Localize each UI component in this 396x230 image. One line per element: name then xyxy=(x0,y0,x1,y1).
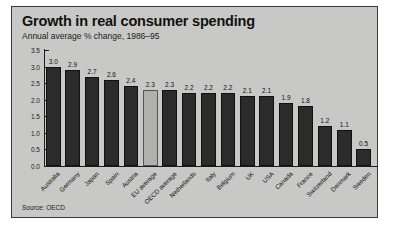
bar xyxy=(124,86,139,166)
bar-column: 1.9 xyxy=(279,103,294,166)
bar xyxy=(143,90,158,166)
y-tick-label: 3.5 xyxy=(18,47,40,54)
y-tick-label: 2.0 xyxy=(18,96,40,103)
bar xyxy=(279,103,294,166)
x-category-label: Canada xyxy=(274,170,295,191)
bar-column: 1.2 xyxy=(318,126,333,166)
y-tick-label: 2.5 xyxy=(18,80,40,87)
bar-column: 2.1 xyxy=(259,96,274,166)
x-category-label: USA xyxy=(261,170,275,184)
bar xyxy=(221,93,236,166)
x-category-label: UK xyxy=(244,170,255,181)
page-title: Growth in real consumer spending xyxy=(22,13,255,29)
chart-panel: Growth in real consumer spending Annual … xyxy=(11,6,378,218)
bar xyxy=(85,77,100,166)
bar-value-label: 1.8 xyxy=(292,97,318,104)
source-note: Source: OECD xyxy=(22,204,65,211)
bar xyxy=(337,130,352,166)
bar-column: 2.2 xyxy=(221,93,236,166)
bar xyxy=(318,126,333,166)
x-category-label: Italy xyxy=(203,170,216,183)
y-tick-label: 1.0 xyxy=(18,129,40,136)
x-category-label: Japan xyxy=(83,170,100,187)
bar-column: 1.8 xyxy=(298,106,313,166)
bar xyxy=(162,90,177,166)
y-tick-mark xyxy=(45,166,49,167)
x-category-label: Sweden xyxy=(351,170,372,191)
bar-column: 2.3 xyxy=(162,90,177,166)
x-category-label: Belgium xyxy=(215,170,236,191)
x-category-label: Spain xyxy=(103,170,119,186)
y-tick-mark xyxy=(45,50,49,51)
chart-subtitle: Annual average % change, 1986–95 xyxy=(22,31,160,41)
bar xyxy=(104,80,119,166)
bar-column: 2.2 xyxy=(182,93,197,166)
bar xyxy=(240,96,255,166)
bar-column: 0.5 xyxy=(356,149,371,166)
bar-column: 2.6 xyxy=(104,80,119,166)
bar xyxy=(201,93,216,166)
bar-column: 2.1 xyxy=(240,96,255,166)
y-tick-label: 0.0 xyxy=(18,163,40,170)
bar-column: 2.2 xyxy=(201,93,216,166)
bar-value-label: 0.5 xyxy=(351,140,377,147)
y-tick-label: 0.5 xyxy=(18,146,40,153)
y-tick-label: 1.5 xyxy=(18,113,40,120)
bar xyxy=(356,149,371,166)
bar-column: 3.0 xyxy=(46,67,61,166)
x-axis-line xyxy=(44,166,378,167)
bar-column: 2.4 xyxy=(124,86,139,166)
bar-value-label: 1.1 xyxy=(331,121,357,128)
bar xyxy=(65,70,80,166)
bar xyxy=(182,93,197,166)
bar-column: 2.9 xyxy=(65,70,80,166)
bar xyxy=(259,96,274,166)
bar xyxy=(46,67,61,166)
bar xyxy=(298,106,313,166)
bar-column: 1.1 xyxy=(337,130,352,166)
plot-area: 0.00.51.01.52.02.53.03.5 3.02.92.72.62.4… xyxy=(36,49,378,167)
bar-column: 2.3 xyxy=(143,90,158,166)
y-tick-label: 3.0 xyxy=(18,63,40,70)
bar-column: 2.7 xyxy=(85,77,100,166)
